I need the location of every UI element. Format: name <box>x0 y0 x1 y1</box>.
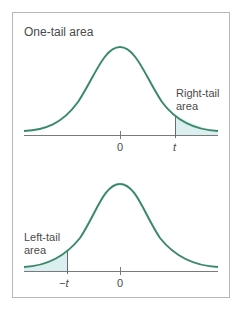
tick-label-t: t <box>173 141 176 153</box>
right-tail-shade <box>175 115 218 135</box>
top-panel-title: One-tail area <box>24 26 93 39</box>
bottom-tick-label-zero: 0 <box>117 277 123 289</box>
right-tail-label-line1: Right-tail <box>176 87 219 100</box>
top-tick-label-zero: 0 <box>117 141 123 153</box>
tick-label-neg-t: −t <box>59 277 68 289</box>
left-tail-label-line2: area <box>24 244 46 257</box>
distribution-diagrams <box>0 0 243 312</box>
bottom-panel-graphic <box>24 184 218 275</box>
bottom-bell-curve <box>24 184 218 267</box>
left-tail-label-line1: Left-tail <box>24 231 60 244</box>
right-tail-label-line2: area <box>176 100 198 113</box>
